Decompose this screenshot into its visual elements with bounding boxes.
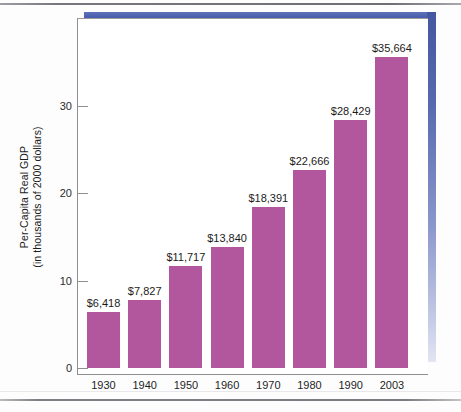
x-axis-label-1950: 1950 (164, 380, 208, 391)
page-rule-top (0, 3, 461, 5)
bar-value-label-1940: $7,827 (117, 286, 173, 297)
bar-2003[interactable] (375, 57, 408, 368)
x-axis-label-1940: 1940 (123, 380, 167, 391)
bar-value-label-1950: $11,717 (158, 252, 214, 263)
y-tick-mark (78, 106, 88, 107)
bar-value-label-2003: $35,664 (364, 43, 420, 54)
y-tick-mark (78, 368, 88, 369)
y-tick-label-text: 0 (48, 363, 72, 374)
y-tick-label: 10 (48, 276, 72, 287)
gdp-bar-chart-figure: Per-Capita Real GDP (in thousands of 200… (0, 6, 461, 392)
bar-1930[interactable] (87, 312, 120, 368)
bar-value-label-1990: $28,429 (323, 106, 379, 117)
y-tick-label-text: 10 (48, 276, 72, 287)
page-rule-bottom-faint (0, 391, 461, 392)
bar-1960[interactable] (211, 247, 244, 368)
x-axis-label-2003: 2003 (370, 380, 414, 391)
bar-value-label-1980: $22,666 (282, 156, 338, 167)
y-tick-mark (78, 281, 88, 282)
bar-value-label-1930: $6,418 (76, 298, 132, 309)
x-axis-label-1960: 1960 (205, 380, 249, 391)
bar-1980[interactable] (293, 170, 326, 368)
x-axis-line (77, 374, 428, 375)
x-axis-label-1980: 1980 (288, 380, 332, 391)
y-tick-label-text: 30 (48, 101, 72, 112)
decorative-frame-right (427, 12, 436, 362)
y-axis-title-line1: Per-Capita Real GDP (18, 97, 31, 297)
y-axis-title-line2: (in thousands of 2000 dollars) (31, 97, 44, 297)
y-axis-line (77, 18, 78, 375)
page-rule-bottom (0, 399, 461, 401)
y-tick-label: 20 (48, 188, 72, 199)
bar-value-label-1960: $13,840 (199, 233, 255, 244)
bar-1970[interactable] (252, 207, 285, 368)
y-tick-mark (78, 193, 88, 194)
x-axis-label-1970: 1970 (246, 380, 290, 391)
y-tick-label-text: 20 (48, 188, 72, 199)
bar-1940[interactable] (128, 300, 161, 368)
bar-1990[interactable] (334, 120, 367, 368)
x-axis-label-1930: 1930 (82, 380, 126, 391)
bar-1950[interactable] (169, 266, 202, 368)
x-axis-label-1990: 1990 (329, 380, 373, 391)
y-tick-label: 0 (48, 363, 72, 374)
y-axis-title: Per-Capita Real GDP (in thousands of 200… (18, 97, 44, 297)
y-tick-label: 30 (48, 101, 72, 112)
bar-value-label-1970: $18,391 (240, 193, 296, 204)
